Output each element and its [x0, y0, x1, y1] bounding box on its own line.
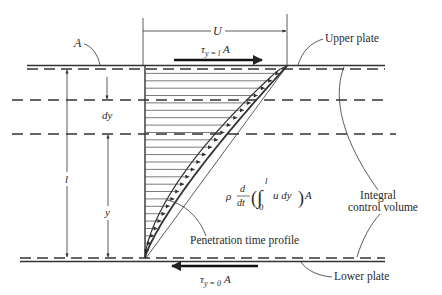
eq-rho: ρ: [225, 190, 231, 202]
l-label: l: [65, 173, 68, 185]
control-volume-leader-top: [339, 67, 378, 190]
eq-d-den: dt: [237, 197, 245, 208]
area-leader: [84, 44, 100, 65]
lower-plate-leader: [301, 262, 332, 277]
control-volume-leader-bottom: [357, 214, 380, 257]
bottom-shear-label: τy = 0A: [200, 273, 231, 288]
upper-plate-label: Upper plate: [325, 32, 379, 45]
couette-flow-diagram: U τy = lA τy = 0A A Upper plate Lower pl…: [0, 0, 442, 295]
top-shear-label: τy = lA: [201, 43, 230, 58]
eq-lower-limit: 0: [259, 202, 264, 212]
dy-label: dy: [102, 109, 113, 121]
control-volume-label-2: control volume: [348, 201, 418, 213]
eq-upper-limit: l: [265, 176, 268, 186]
upper-plate-leader: [298, 39, 323, 65]
lower-plate-label: Lower plate: [334, 270, 389, 283]
eq-d-num: d: [240, 183, 246, 194]
penetration-label: Penetration time profile: [190, 234, 299, 247]
momentum-equation: ρ d dt ( ∫ l 0 u dy ) A: [225, 176, 312, 212]
y-label: y: [104, 206, 110, 218]
eq-paren-close: ): [298, 188, 304, 209]
u-velocity-label: U: [213, 24, 223, 38]
eq-integrand: u dy: [273, 189, 292, 201]
area-label: A: [73, 36, 82, 50]
eq-area: A: [304, 189, 312, 201]
